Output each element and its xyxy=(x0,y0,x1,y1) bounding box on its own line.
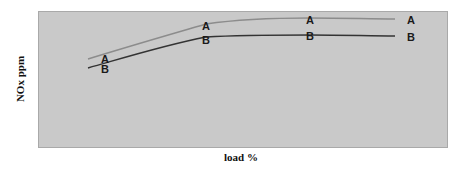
point-label-b-1: B xyxy=(101,63,109,75)
nox-vs-load-chart: A A A A B B B B NOx ppm load % xyxy=(0,0,465,169)
plot-area xyxy=(39,12,448,148)
point-label-b-3: B xyxy=(306,30,314,42)
point-label-b-2: B xyxy=(202,34,210,46)
point-label-b-4: B xyxy=(407,31,415,43)
y-axis-label: NOx ppm xyxy=(14,56,26,102)
point-label-a-4: A xyxy=(407,14,415,26)
x-axis-label: load % xyxy=(224,151,258,163)
point-label-a-3: A xyxy=(306,14,314,26)
point-label-a-2: A xyxy=(202,20,210,32)
